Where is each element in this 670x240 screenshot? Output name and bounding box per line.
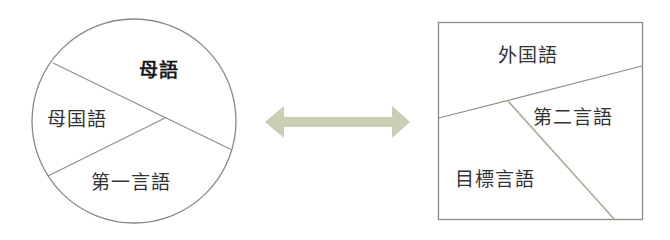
label-bokokugo: 母国語: [47, 110, 107, 129]
label-daiichi-gengo: 第一言語: [91, 173, 171, 192]
label-bogo: 母語: [139, 61, 179, 80]
label-mokuhyo-gengo: 目標言語: [455, 170, 535, 189]
double-arrow-icon: [265, 106, 410, 138]
label-gaikokugo: 外国語: [498, 46, 558, 65]
label-daini-gengo: 第二言語: [533, 108, 613, 127]
